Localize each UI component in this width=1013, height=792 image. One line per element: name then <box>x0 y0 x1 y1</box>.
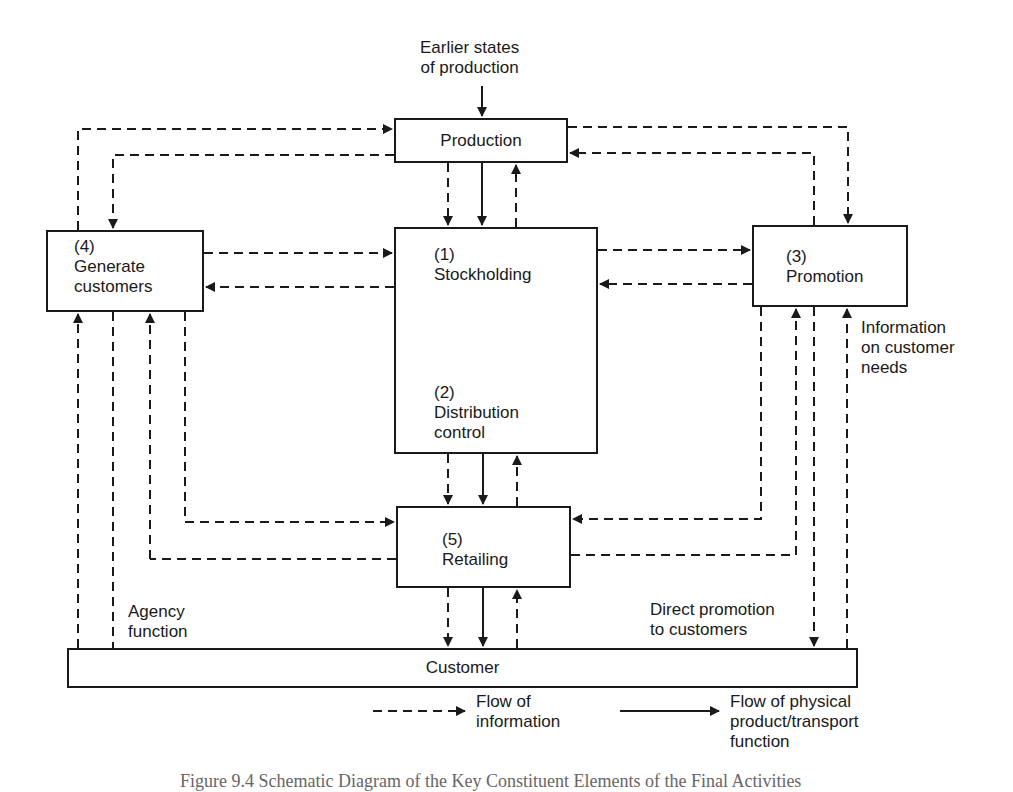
direct-promo-line1: Direct promotion <box>650 600 775 620</box>
legend-info-line2: information <box>476 712 560 732</box>
retailing-label: (5) Retailing <box>442 530 508 570</box>
generate-text-1: Generate <box>74 257 152 277</box>
legend-information: Flow of information <box>476 692 560 732</box>
production-box: Production <box>394 118 568 163</box>
promotion-label: (3) Promotion <box>786 247 863 287</box>
distribution-label: (2) Distribution control <box>434 383 519 443</box>
direct-promo-line2: to customers <box>650 620 775 640</box>
retailing-number: (5) <box>442 530 508 550</box>
legend-physical-line1: Flow of physical <box>730 692 859 712</box>
promotion-number: (3) <box>786 247 863 267</box>
agency-line2: function <box>128 622 188 642</box>
stockholding-box: (1) Stockholding (2) Distribution contro… <box>394 227 598 454</box>
info-needs-line2: on customer <box>861 338 955 358</box>
production-label: Production <box>396 131 566 151</box>
generate-number: (4) <box>74 237 152 257</box>
legend-physical-line2: product/transport <box>730 712 859 732</box>
retailing-text: Retailing <box>442 550 508 570</box>
legend-physical: Flow of physical product/transport funct… <box>730 692 859 752</box>
direct-promotion-annotation: Direct promotion to customers <box>650 600 775 640</box>
earlier-states-line2: of production <box>420 58 519 78</box>
distribution-number: (2) <box>434 383 519 403</box>
generate-text-2: customers <box>74 277 152 297</box>
distribution-text-1: Distribution <box>434 403 519 423</box>
promotion-text: Promotion <box>786 267 863 287</box>
earlier-states-label: Earlier states of production <box>420 38 519 78</box>
stockholding-text: Stockholding <box>434 265 531 285</box>
promotion-box: (3) Promotion <box>752 225 908 307</box>
distribution-text-2: control <box>434 423 519 443</box>
stockholding-number: (1) <box>434 245 531 265</box>
agency-function-annotation: Agency function <box>128 602 188 642</box>
info-needs-annotation: Information on customer needs <box>861 318 955 378</box>
legend-physical-line3: function <box>730 732 859 752</box>
customer-label: Customer <box>69 658 856 678</box>
customer-box: Customer <box>67 648 858 688</box>
info-needs-line1: Information <box>861 318 955 338</box>
figure-caption: Figure 9.4 Schematic Diagram of the Key … <box>180 771 801 792</box>
info-needs-line3: needs <box>861 358 955 378</box>
legend-info-line1: Flow of <box>476 692 560 712</box>
retailing-box: (5) Retailing <box>396 506 571 588</box>
generate-customers-label: (4) Generate customers <box>74 237 152 297</box>
generate-customers-box: (4) Generate customers <box>46 230 204 312</box>
agency-line1: Agency <box>128 602 188 622</box>
stockholding-label: (1) Stockholding <box>434 245 531 285</box>
earlier-states-line1: Earlier states <box>420 38 519 58</box>
